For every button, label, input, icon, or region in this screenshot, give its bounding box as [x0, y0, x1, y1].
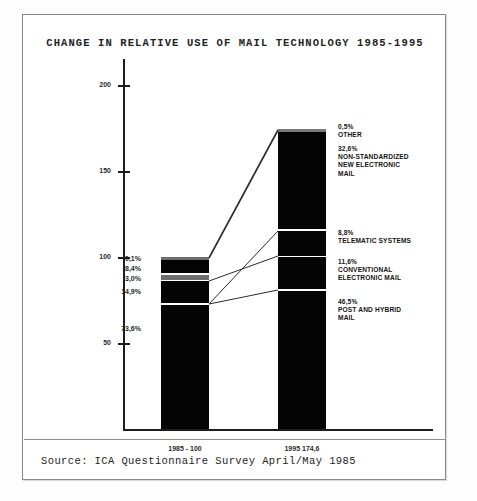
bar-1995-segment-conventional — [278, 257, 326, 289]
annotation-other: 0,5% OTHER — [338, 123, 362, 139]
plot-area: 200 150 100 50 0,1% 8,4% 3,0% 14 — [23, 15, 447, 481]
x-label-1995: 1995 174,6 — [266, 445, 338, 452]
y-tick-50-mark — [118, 343, 130, 345]
bar-1985-label-post-hybrid: 73,6% — [101, 325, 141, 332]
annotation-conventional: 11,6% CONVENTIONAL ELECTRONIC MAIL — [338, 258, 401, 283]
y-tick-150-label: 150 — [85, 167, 111, 174]
x-axis-line — [123, 429, 433, 431]
bar-1985-label-non-standardized: 8,4% — [101, 265, 141, 272]
annotation-non-standardized: 32,6% NON-STANDARDIZED NEW ELECTRONIC MA… — [338, 145, 409, 178]
bar-1985-segment-conventional — [161, 281, 209, 303]
bar-1985-label-conventional: 14,9% — [101, 288, 141, 295]
y-tick-200-label: 200 — [85, 81, 111, 88]
bar-1985-label-other: 0,1% — [101, 255, 141, 262]
footer-divider — [24, 439, 446, 440]
annotation-other-pct: 0,5% — [338, 123, 362, 131]
annotation-conventional-name-1: CONVENTIONAL — [338, 266, 401, 274]
annotation-post-hybrid-pct: 46,5% — [338, 298, 401, 306]
annotation-other-name: OTHER — [338, 131, 362, 139]
annotation-non-standardized-name-2: NEW ELECTRONIC — [338, 161, 409, 169]
annotation-conventional-name-2: ELECTRONIC MAIL — [338, 274, 401, 282]
annotation-post-hybrid: 46,5% POST AND HYBRID MAIL — [338, 298, 401, 323]
annotation-post-hybrid-name-1: POST AND HYBRID — [338, 306, 401, 314]
screenshot-root: CHANGE IN RELATIVE USE OF MAIL TECHNOLOG… — [0, 0, 477, 501]
y-tick-150-mark — [118, 171, 130, 173]
chart-frame: CHANGE IN RELATIVE USE OF MAIL TECHNOLOG… — [22, 14, 446, 480]
bar-1995 — [278, 129, 326, 429]
bar-1985-segment-non-standardized — [161, 260, 209, 273]
annotation-telematic-name: TELEMATIC SYSTEMS — [338, 237, 411, 245]
x-label-1985: 1985 - 100 — [151, 445, 219, 452]
bar-1985-label-telematic: 3,0% — [101, 275, 141, 282]
y-tick-50-label: 50 — [85, 339, 111, 346]
y-axis-line — [123, 59, 125, 431]
y-tick-200-mark — [118, 85, 130, 87]
bar-1995-segment-telematic — [278, 231, 326, 256]
annotation-telematic: 8,8% TELEMATIC SYSTEMS — [338, 229, 411, 245]
annotation-non-standardized-pct: 32,6% — [338, 145, 409, 153]
bar-1995-segment-post-hybrid — [278, 291, 326, 430]
bar-1985-segment-post-hybrid — [161, 305, 209, 430]
bar-1995-segment-non-standardized — [278, 132, 326, 229]
annotation-non-standardized-name-3: MAIL — [338, 170, 409, 178]
annotation-conventional-pct: 11,6% — [338, 258, 401, 266]
annotation-non-standardized-name-1: NON-STANDARDIZED — [338, 153, 409, 161]
bar-1985 — [161, 257, 209, 429]
source-note: Source: ICA Questionnaire Survey April/M… — [41, 455, 356, 467]
annotation-post-hybrid-name-2: MAIL — [338, 314, 401, 322]
annotation-telematic-pct: 8,8% — [338, 229, 411, 237]
